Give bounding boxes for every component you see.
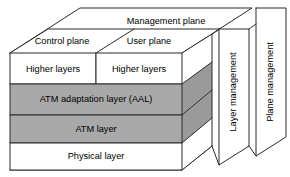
connector-bottom-to-layer-panel [212, 146, 219, 165]
user-plane-label: User plane [127, 36, 171, 46]
connector-layer-bottom-to-plane [249, 146, 256, 156]
layer-higher-layers-user-label: Higher layers [112, 64, 167, 74]
layer-atm-label: ATM layer [75, 124, 116, 134]
layer-higher-layers-control-label: Higher layers [26, 64, 81, 74]
layer-stack-group: Higher layers Higher layers ATM adaptati… [10, 53, 182, 170]
layer-management-label: Layer management [228, 52, 238, 132]
control-plane-label: Control plane [35, 36, 90, 46]
layer-physical-label: Physical layer [68, 151, 125, 161]
layer-management-panel-group: Layer management [219, 29, 249, 165]
plane-management-panel-group: Plane management [256, 8, 286, 156]
management-plane-label: Management plane [127, 16, 206, 26]
plane-management-label: Plane management [265, 42, 275, 122]
atm-protocol-reference-model-diagram: Management plane Control plane User plan… [0, 0, 290, 177]
connector-layer-to-plane-panel [249, 24, 256, 29]
cube-canvas: Management plane Control plane User plan… [0, 0, 290, 177]
layer-aal-label: ATM adaptation layer (AAL) [40, 94, 153, 104]
